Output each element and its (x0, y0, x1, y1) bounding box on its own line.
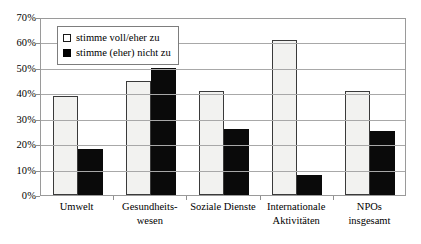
gridline (41, 94, 405, 95)
y-axis-tick-label: 20% (0, 140, 36, 151)
y-axis-tick-label: 70% (0, 13, 36, 24)
gridline (41, 171, 405, 172)
gridline (41, 120, 405, 121)
y-axis-tick-label: 50% (0, 64, 36, 75)
y-axis-tick-mark (35, 171, 40, 172)
y-axis-tick-label: 60% (0, 38, 36, 49)
y-axis-tick-mark (35, 94, 40, 95)
y-axis-tick-mark (35, 18, 40, 19)
bar (297, 175, 322, 195)
bar (151, 68, 176, 195)
bar (272, 40, 297, 195)
x-axis-tick-mark (333, 196, 334, 200)
y-axis-tick-label: 10% (0, 166, 36, 177)
bar-chart: 70%60%50%40%30%20%10%0% UmweltGesundheit… (0, 0, 421, 244)
x-axis-tick-mark (260, 196, 261, 200)
x-axis-tick-mark (113, 196, 114, 200)
y-axis-tick-mark (35, 69, 40, 70)
white-square-icon (63, 34, 71, 42)
bar (126, 81, 151, 195)
x-axis-labels: UmweltGesundheits-wesenSoziale DiensteIn… (40, 200, 406, 244)
bar (370, 131, 395, 195)
y-axis-tick-mark (35, 120, 40, 121)
x-axis-tick-mark (186, 196, 187, 200)
gridline (41, 145, 405, 146)
legend-label-0: stimme voll/eher zu (76, 32, 159, 43)
legend-item-1: stimme (eher) nicht zu (63, 45, 171, 60)
x-axis-label-line: NPOs (325, 200, 414, 214)
legend-label-1: stimme (eher) nicht zu (76, 47, 171, 58)
legend-item-0: stimme voll/eher zu (63, 30, 171, 45)
y-axis-tick-mark (35, 43, 40, 44)
x-axis-label-line: wesen (105, 214, 194, 228)
bar (224, 129, 249, 195)
x-axis-label-line: insgesamt (325, 214, 414, 228)
x-axis-category-label: NPOsinsgesamt (325, 200, 414, 228)
y-axis-labels: 70%60%50%40%30%20%10%0% (0, 0, 36, 244)
bar (78, 149, 103, 195)
y-axis-tick-label: 0% (0, 191, 36, 202)
y-axis-tick-mark (35, 145, 40, 146)
gridline (41, 69, 405, 70)
y-axis-tick-label: 30% (0, 115, 36, 126)
black-square-icon (63, 49, 71, 57)
bar (345, 91, 370, 195)
y-axis-tick-mark (35, 196, 40, 197)
y-axis-tick-label: 40% (0, 89, 36, 100)
chart-legend: stimme voll/eher zu stimme (eher) nicht … (57, 26, 179, 65)
bar (199, 91, 224, 195)
